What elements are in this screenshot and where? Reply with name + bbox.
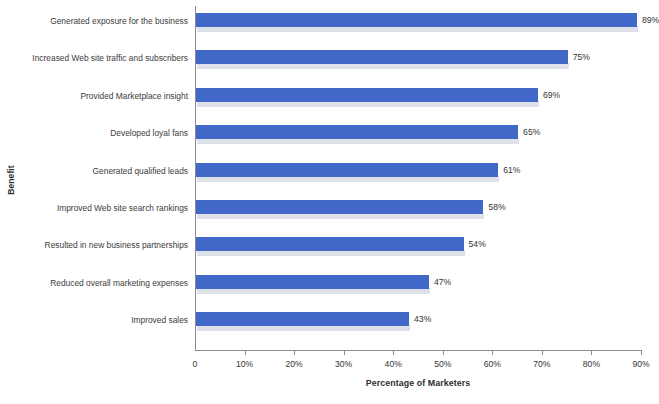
bar[interactable] xyxy=(196,88,538,102)
x-axis-tick-label: 40% xyxy=(385,358,402,370)
bar-row: Improved sales43% xyxy=(195,310,641,348)
category-label: Improved sales xyxy=(131,315,188,326)
category-label: Provided Marketplace insight xyxy=(80,91,188,102)
bar-value-label: 75% xyxy=(573,51,590,63)
x-axis-tick xyxy=(641,350,642,355)
x-axis-tick-label: 20% xyxy=(286,358,303,370)
category-label: Reduced overall marketing expenses xyxy=(50,278,188,289)
x-axis-line xyxy=(195,350,641,351)
plot-area: Generated exposure for the business89%In… xyxy=(195,6,641,350)
bar[interactable] xyxy=(196,200,483,214)
bar-row: Developed loyal fans65% xyxy=(195,123,641,161)
x-axis-tick xyxy=(443,350,444,355)
bar-value-label: 65% xyxy=(523,126,540,138)
y-axis-title: Benefit xyxy=(0,0,22,360)
bar-row: Improved Web site search rankings58% xyxy=(195,198,641,236)
x-axis-tick-label: 30% xyxy=(335,358,352,370)
x-axis-tick-label: 50% xyxy=(434,358,451,370)
x-axis-tick xyxy=(542,350,543,355)
x-axis-tick xyxy=(294,350,295,355)
bar-row: Increased Web site traffic and subscribe… xyxy=(195,48,641,86)
category-label: Developed loyal fans xyxy=(110,128,188,139)
x-axis-title: Percentage of Marketers xyxy=(195,378,641,388)
bar-value-label: 89% xyxy=(642,14,659,26)
x-axis-tick xyxy=(492,350,493,355)
x-axis-tick-label: 70% xyxy=(533,358,550,370)
bar-row: Reduced overall marketing expenses47% xyxy=(195,273,641,311)
bar[interactable] xyxy=(196,237,464,251)
bar[interactable] xyxy=(196,275,429,289)
x-axis-tick-label: 90% xyxy=(632,358,649,370)
bar[interactable] xyxy=(196,312,409,326)
bar-row: Resulted in new business partnerships54% xyxy=(195,235,641,273)
x-axis-tick xyxy=(245,350,246,355)
bar-value-label: 58% xyxy=(488,201,505,213)
category-label: Resulted in new business partnerships xyxy=(45,240,188,251)
bar-row: Generated qualified leads61% xyxy=(195,161,641,199)
category-label: Generated exposure for the business xyxy=(50,16,188,27)
category-label: Increased Web site traffic and subscribe… xyxy=(32,53,188,64)
category-label: Generated qualified leads xyxy=(93,166,188,177)
x-axis-tick-label: 0 xyxy=(193,358,198,370)
bar-value-label: 69% xyxy=(543,89,560,101)
bar[interactable] xyxy=(196,13,637,27)
y-axis-title-label: Benefit xyxy=(6,165,16,195)
bar[interactable] xyxy=(196,50,568,64)
bar-value-label: 43% xyxy=(414,313,431,325)
bar[interactable] xyxy=(196,125,518,139)
x-axis-tick xyxy=(591,350,592,355)
category-label: Improved Web site search rankings xyxy=(57,203,188,214)
bar-row: Generated exposure for the business89% xyxy=(195,11,641,49)
x-axis-tick xyxy=(393,350,394,355)
x-axis-tick-label: 80% xyxy=(583,358,600,370)
bar-value-label: 47% xyxy=(434,276,451,288)
x-axis-tick xyxy=(344,350,345,355)
bar-row: Provided Marketplace insight69% xyxy=(195,86,641,124)
bar[interactable] xyxy=(196,163,498,177)
x-axis-tick-label: 60% xyxy=(484,358,501,370)
bar-value-label: 61% xyxy=(503,164,520,176)
bar-value-label: 54% xyxy=(469,238,486,250)
x-axis-tick-label: 10% xyxy=(236,358,253,370)
